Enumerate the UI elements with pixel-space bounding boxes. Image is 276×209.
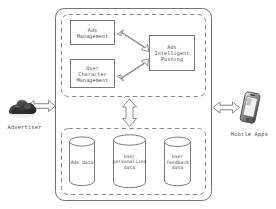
arrow-platform-to-mobile-apps — [213, 102, 240, 113]
arrow-service-to-data-layer — [123, 99, 137, 127]
mobile-apps-label: Mobile Apps — [223, 131, 276, 137]
node-ads-management[interactable] — [71, 21, 115, 45]
node-user-feedback-data[interactable] — [165, 137, 191, 186]
node-user-character-management[interactable] — [71, 60, 115, 88]
mobile-phone-icon — [240, 91, 261, 123]
diagram-canvas: Ads Management User Character Management… — [0, 0, 276, 209]
advertiser-label: Advertiser — [0, 124, 49, 130]
arrow-user-character-to-pushing — [118, 59, 149, 81]
node-user-personalized-data[interactable] — [114, 135, 146, 188]
node-ads-intelligent-pushing[interactable] — [150, 36, 195, 71]
node-ads-data[interactable] — [70, 137, 95, 186]
diagram-vector-layer — [0, 0, 276, 209]
arrow-ads-management-to-pushing — [118, 30, 149, 52]
